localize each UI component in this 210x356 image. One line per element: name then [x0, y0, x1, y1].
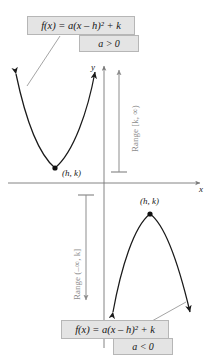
upward-parabola-vertex-point [52, 165, 57, 170]
range-bracket-upper [111, 70, 127, 172]
formula-callout-bottom: f(x) = a(x – h)² + k [61, 320, 169, 339]
condition-text-bottom: a < 0 [132, 341, 154, 352]
figure-canvas [0, 0, 210, 356]
range-label-upper: Range [k, ∞) [130, 105, 140, 152]
formula-text-bottom: f(x) = a(x – h)² + k [75, 324, 155, 335]
condition-callout-top: a > 0 [79, 35, 139, 52]
condition-text-top: a > 0 [98, 38, 120, 49]
x-axis-label: x [199, 184, 203, 194]
downward-parabola-vertex-point [147, 211, 152, 216]
vertex-label-upper: (h, k) [62, 168, 81, 178]
downward-parabola-curve [113, 214, 190, 312]
formula-callout-top: f(x) = a(x – h)² + k [27, 16, 135, 35]
vertex-label-lower: (h, k) [140, 196, 159, 206]
leader-line-top [27, 36, 60, 86]
y-axis-label: y [91, 62, 95, 72]
range-label-lower: Range (–∞, k] [72, 249, 82, 300]
formula-text-top: f(x) = a(x – h)² + k [41, 20, 121, 31]
condition-callout-bottom: a < 0 [113, 338, 173, 355]
axes-group [8, 66, 200, 348]
parabola-figure: f(x) = a(x – h)² + k a > 0 f(x) = a(x – … [0, 0, 210, 356]
leader-line-bottom [152, 302, 186, 321]
upward-parabola-curve [16, 72, 95, 168]
